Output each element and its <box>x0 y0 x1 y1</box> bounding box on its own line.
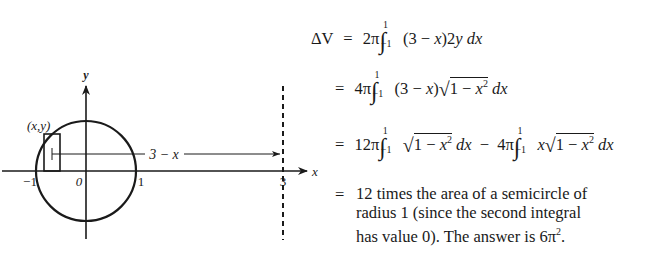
integrand-x: x <box>434 29 441 48</box>
y-axis-label: y <box>81 68 89 82</box>
lower-limit: −1 <box>515 145 526 155</box>
exponent: 2 <box>589 134 594 145</box>
distance-label: 3 − x <box>148 147 179 162</box>
conclusion-line-3: has value 0). The answer is 6π2. <box>356 222 587 246</box>
radicand-body: 1 − <box>450 79 476 98</box>
point-label: (x,y) <box>27 118 50 133</box>
lower-limit: −1 <box>381 39 392 49</box>
coefficient-1: 12π <box>354 135 379 154</box>
period: . <box>561 227 565 246</box>
coefficient: 2π <box>363 29 380 48</box>
conclusion-paragraph: 12 times the area of a semicircle of rad… <box>356 184 587 246</box>
radicand: 1 − x2 <box>556 133 594 154</box>
integral-limits-1: 1−1 <box>387 134 403 154</box>
equation-line-2: = 4π∫1−1(3 − x)√1 − x2 dx <box>335 78 508 103</box>
radical-sign: √ <box>545 134 556 156</box>
x-axis-label: x <box>311 164 318 179</box>
radicand: 1 − x2 <box>450 77 488 98</box>
upper-limit: 1 <box>517 126 522 136</box>
tick-label-three: 3 <box>280 174 287 189</box>
radicand: 1 − x2 <box>414 133 452 154</box>
square-root-2: √1 − x2 <box>545 135 594 155</box>
radicand-x: x <box>582 135 589 154</box>
integrand-part: (3 − <box>403 29 434 48</box>
coefficient: 4π <box>354 79 371 98</box>
equals-sign: = <box>343 29 352 48</box>
differential-1: dx <box>456 135 472 154</box>
integrand-y: y <box>455 29 462 48</box>
equation-line-3: = 12π∫1−1√1 − x2 dx − 4π∫1−1x√1 − x2 dx <box>335 134 614 159</box>
diagram-circle-shell: 3 − x (x,y) y x −1 0 1 3 <box>0 0 330 254</box>
radical-sign: √ <box>403 134 414 156</box>
radicand-x: x <box>440 135 447 154</box>
equals-sign: = <box>335 79 344 98</box>
radicand-body: 1 − <box>414 135 440 154</box>
differential-2: dx <box>598 135 614 154</box>
square-root: √1 − x2 <box>439 79 488 99</box>
conclusion-line-2: radius 1 (since the second integral <box>356 203 587 222</box>
tick-label-neg-one: −1 <box>23 174 37 189</box>
integrand-part: )2 <box>442 29 456 48</box>
integral-limits-2: 1−1 <box>521 134 537 154</box>
radicand-x: x <box>476 79 483 98</box>
lower-limit: −1 <box>381 145 392 155</box>
radical-sign: √ <box>439 78 450 100</box>
upper-limit: 1 <box>383 20 388 30</box>
differential: dx <box>492 79 508 98</box>
conclusion-line-3-text: has value 0). The answer is 6π <box>356 227 556 246</box>
exponent: 2 <box>483 78 488 89</box>
integral-limits: 1−1 <box>379 78 395 98</box>
integrand-part: (3 − <box>395 79 426 98</box>
lower-limit: −1 <box>373 89 384 99</box>
upper-limit: 1 <box>375 70 380 80</box>
conclusion-equals-sign: = <box>335 187 344 204</box>
coefficient-2: 4π <box>497 135 514 154</box>
integral-limits: 1−1 <box>387 28 403 48</box>
minus-sign: − <box>480 135 489 154</box>
tick-label-zero: 0 <box>76 174 83 189</box>
equation-line-1: ΔV = 2π∫1−1(3 − x)2y dx <box>311 28 482 53</box>
square-root-1: √1 − x2 <box>403 135 452 155</box>
upper-limit: 1 <box>383 126 388 136</box>
delta-v: ΔV <box>311 29 333 48</box>
differential: dx <box>467 29 483 48</box>
integrand-x: x <box>537 135 544 154</box>
radicand-body: 1 − <box>556 135 582 154</box>
tick-label-one: 1 <box>138 174 145 189</box>
exponent: 2 <box>447 134 452 145</box>
equals-sign: = <box>335 135 344 154</box>
conclusion-line-1: 12 times the area of a semicircle of <box>356 184 587 203</box>
